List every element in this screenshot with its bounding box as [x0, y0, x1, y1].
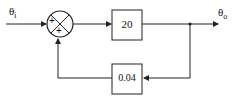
forward-gain-value: 20: [112, 18, 142, 30]
output-label: θo: [218, 6, 227, 21]
sum-sign-left: +: [49, 15, 55, 26]
feedback-path-left: [58, 39, 112, 78]
feedback-gain-value: 0.04: [112, 72, 142, 83]
block-diagram: [0, 0, 239, 98]
feedback-path-right: [144, 24, 190, 78]
input-label: θi: [9, 5, 17, 20]
sum-sign-bottom: +: [56, 25, 62, 36]
